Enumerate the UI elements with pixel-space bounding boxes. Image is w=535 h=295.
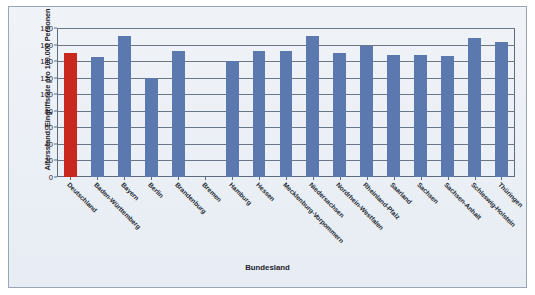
bar-slot (57, 28, 84, 177)
bar-slot (326, 28, 353, 177)
bar-slot (488, 28, 515, 177)
x-tick-mark (232, 177, 233, 180)
x-axis-label: Hamburg (228, 181, 253, 206)
bar-slot (380, 28, 407, 177)
x-tick-mark (97, 177, 98, 180)
bar[interactable] (414, 55, 427, 178)
bar[interactable] (253, 51, 266, 177)
x-tick-mark (178, 177, 179, 180)
bar[interactable] (441, 56, 454, 177)
x-tick-mark (340, 177, 341, 180)
bar-slot (246, 28, 273, 177)
x-tick-mark (475, 177, 476, 180)
bar[interactable] (91, 57, 104, 177)
bar-slot (273, 28, 300, 177)
bar-slot (192, 28, 219, 177)
x-axis-label: Berlin (147, 181, 165, 199)
bar-slot (111, 28, 138, 177)
x-axis-label: Thüringen (497, 181, 524, 208)
bar-slot (84, 28, 111, 177)
x-axis-label: Sachsen (416, 181, 440, 205)
x-axis-label: Saarland (389, 181, 413, 205)
bar[interactable] (226, 61, 239, 177)
x-axis-label: Bremen (201, 181, 223, 203)
bar-slot (353, 28, 380, 177)
bar-slot (434, 28, 461, 177)
x-tick-mark (367, 177, 368, 180)
x-tick-mark (421, 177, 422, 180)
x-tick-mark (205, 177, 206, 180)
bar[interactable] (172, 51, 185, 177)
x-axis-label: Hessen (255, 181, 276, 202)
x-tick-mark (151, 177, 152, 180)
x-axis-label: Baden-Württemberg (93, 181, 142, 230)
bar-slot (461, 28, 488, 177)
x-axis-label: Nordrhein-Westfalen (335, 181, 385, 231)
bar-slot (138, 28, 165, 177)
bar[interactable] (387, 55, 400, 177)
bar[interactable] (495, 42, 508, 177)
chart-figure: Altersstand. Eingriffsrate pro 100.000 P… (8, 6, 527, 288)
y-tick-label: 0 (49, 173, 53, 182)
bar[interactable] (360, 46, 373, 177)
bar[interactable] (333, 53, 346, 177)
x-axis-label: Bayern (120, 181, 141, 202)
bar[interactable] (306, 36, 319, 177)
bar[interactable] (280, 51, 293, 177)
bar-slot (219, 28, 246, 177)
x-tick-mark (448, 177, 449, 180)
x-tick-mark (70, 177, 71, 180)
bar[interactable] (145, 78, 158, 177)
bars-layer (57, 28, 515, 177)
x-tick-mark (394, 177, 395, 180)
y-axis-title: Altersstand. Eingriffsrate pro 100.000 P… (43, 7, 52, 173)
plot-area: 020406080100120140160180 (57, 28, 515, 177)
bar[interactable] (468, 38, 481, 177)
bar-slot (299, 28, 326, 177)
bar[interactable] (64, 53, 77, 177)
x-axis-category-labels: DeutschlandBaden-WürttembergBayernBerlin… (57, 181, 515, 261)
x-tick-mark (501, 177, 502, 180)
x-axis-title: Bundesland (9, 263, 526, 272)
bar[interactable] (118, 36, 131, 177)
bar-slot (407, 28, 434, 177)
x-tick-mark (313, 177, 314, 180)
bar-slot (165, 28, 192, 177)
